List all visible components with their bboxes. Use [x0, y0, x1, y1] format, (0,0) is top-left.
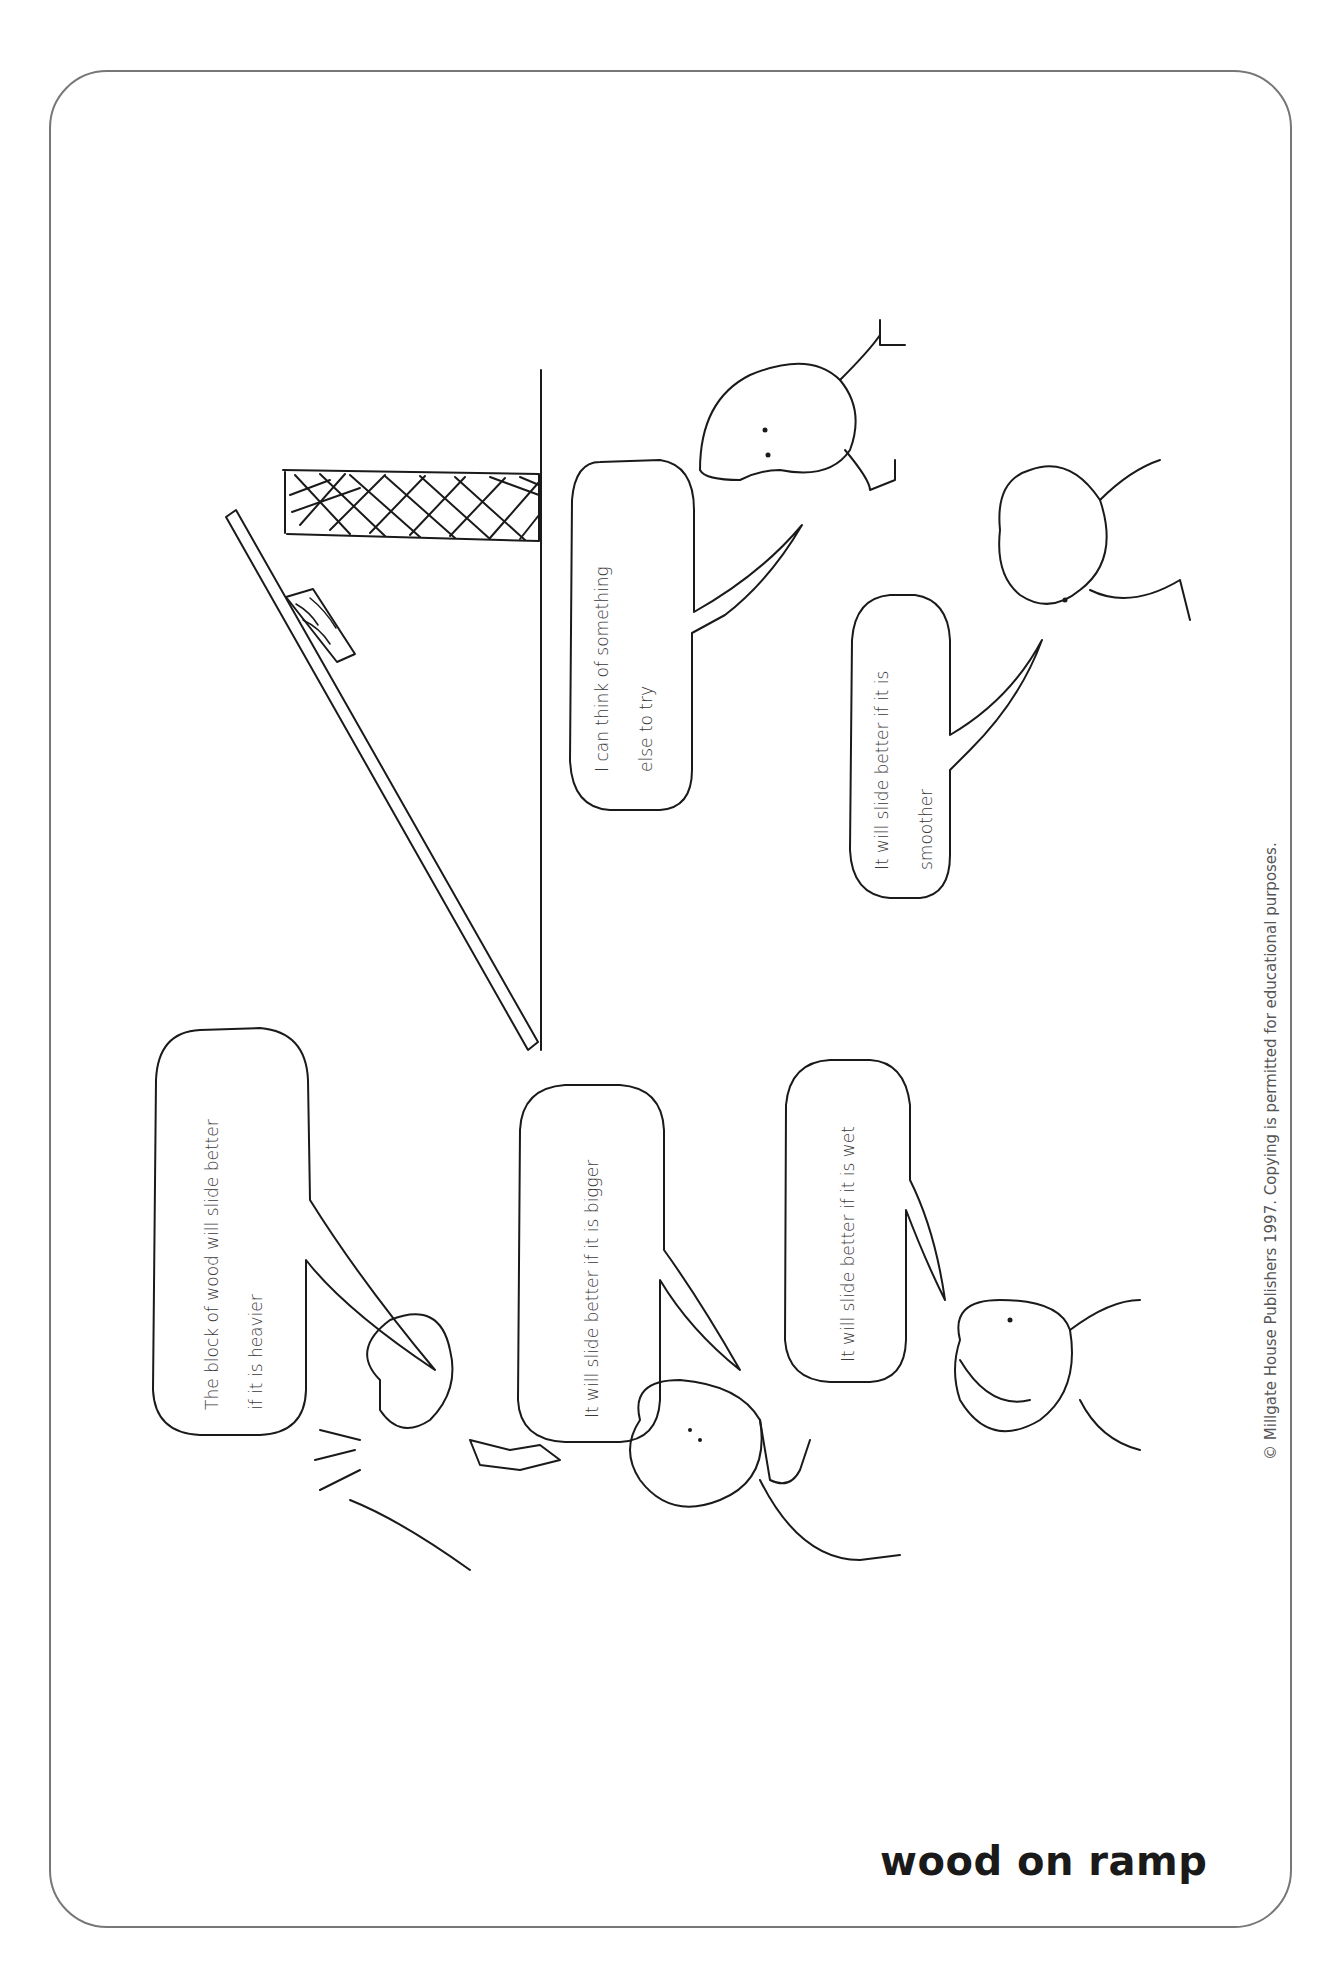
bubble-smoother-line-2: smoother [904, 671, 948, 870]
bubble-smoother-line-1: It will slide better if it is [860, 671, 904, 870]
character-top [700, 320, 905, 490]
bubble-something-else: I can think of something else to try [580, 566, 668, 772]
character-right-top [999, 460, 1190, 620]
bubble-heavier-line-2: if it is heavier [234, 1119, 278, 1410]
bubble-bigger: It will slide better if it is bigger [570, 1160, 614, 1418]
character-bigger [630, 1380, 900, 1560]
bubble-heavier-line-1: The block of wood will slide better [190, 1119, 234, 1410]
bubble-wet-line-1: It will slide better if it is wet [826, 1126, 870, 1362]
bubble-wet: It will slide better if it is wet [826, 1126, 870, 1362]
bubble-smoother: It will slide better if it is smoother [860, 671, 948, 870]
support-block [283, 470, 539, 541]
worksheet-title: wood on ramp [880, 1838, 1207, 1884]
copyright-notice: © Millgate House Publishers 1997. Copyin… [1262, 842, 1280, 1460]
wood-block [286, 589, 355, 662]
ramp-illustration [0, 0, 1332, 1978]
bubble-bigger-line-1: It will slide better if it is bigger [570, 1160, 614, 1418]
bubble-something-else-line-1: I can think of something [580, 566, 624, 772]
character-heavier [315, 1314, 560, 1570]
bubble-something-else-line-2: else to try [624, 566, 668, 772]
bubble-outline-bigger [518, 1085, 740, 1442]
character-wet [955, 1300, 1140, 1450]
ramp-plank [226, 510, 538, 1050]
bubble-heavier: The block of wood will slide better if i… [190, 1119, 278, 1410]
